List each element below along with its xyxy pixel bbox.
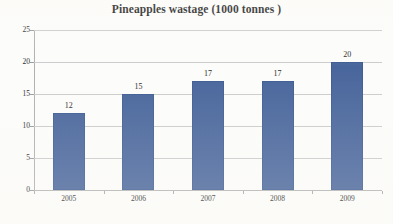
x-axis-label-2008: 2008 [243, 194, 313, 203]
x-axis-label-2005: 2005 [34, 194, 104, 203]
bar-slot: 17 [243, 30, 313, 190]
bar-value-label: 17 [204, 69, 212, 78]
bar-value-label: 20 [343, 50, 351, 59]
bar-slot: 15 [104, 30, 174, 190]
bar-value-label: 17 [274, 69, 282, 78]
chart-title: Pineapples wastage (1000 tonnes ) [0, 3, 393, 15]
bar-slot: 20 [312, 30, 382, 190]
x-axis-tick-mark [382, 191, 383, 194]
bar-slot: 17 [173, 30, 243, 190]
bar-value-label: 12 [65, 101, 73, 110]
x-axis-label-2009: 2009 [312, 194, 382, 203]
bar-chart: Pineapples wastage (1000 tonnes ) 051015… [0, 0, 393, 224]
plot-area: 1215171720 [34, 30, 382, 190]
y-axis-tick-label: 20 [6, 57, 30, 66]
y-axis-tick-label: 25 [6, 25, 30, 34]
x-axis-label-2007: 2007 [173, 194, 243, 203]
y-axis-tick-label: 15 [6, 89, 30, 98]
bar-2009[interactable] [331, 62, 363, 190]
bar-value-label: 15 [134, 82, 142, 91]
bar-slot: 12 [34, 30, 104, 190]
y-axis-tick-labels: 0510152025 [0, 30, 30, 191]
x-axis-label-2006: 2006 [104, 194, 174, 203]
bar-2005[interactable] [53, 113, 85, 190]
y-axis-tick-label: 0 [6, 185, 30, 194]
bar-2007[interactable] [192, 81, 224, 190]
x-axis-tick-labels: 20052006200720082009 [34, 194, 382, 212]
y-axis-tick-label: 10 [6, 121, 30, 130]
bar-2006[interactable] [122, 94, 154, 190]
y-axis-tick-label: 5 [6, 153, 30, 162]
bar-2008[interactable] [262, 81, 294, 190]
